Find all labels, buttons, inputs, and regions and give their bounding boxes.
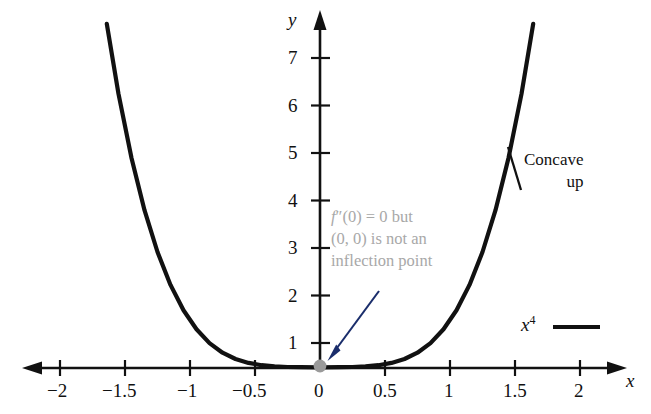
y-axis — [314, 10, 327, 370]
origin-point — [314, 360, 327, 373]
y-tick-label-5: 5 — [288, 143, 298, 162]
x-axis-left-arrowhead — [22, 362, 42, 375]
x-tick-label-neg2: −2 — [47, 381, 67, 400]
figure-container: y x 7 6 5 4 3 2 1 −2 −1.5 −1 −0.5 0 0.5 … — [0, 0, 651, 414]
y-tick-label-2: 2 — [288, 286, 298, 305]
y-tick-label-1: 1 — [288, 333, 298, 352]
y-tick-label-3: 3 — [288, 238, 298, 257]
legend-exponent: 4 — [529, 313, 535, 327]
concavity-annotation-line-2: up — [524, 171, 583, 193]
concavity-annotation-line-1: Concave — [524, 149, 583, 171]
y-axis-arrowhead — [314, 10, 327, 30]
inflection-annotation-line-3: inflection point — [331, 250, 432, 272]
y-tick-label-7: 7 — [288, 48, 298, 67]
inflection-annotation-line-1-rest: ″(0) = 0 but — [336, 207, 413, 226]
inflection-annotation: f″(0) = 0 but (0, 0) is not an inflectio… — [331, 206, 432, 272]
concavity-leader-line — [508, 147, 521, 190]
x-axis-right-arrowhead — [607, 362, 627, 375]
y-tick-label-6: 6 — [288, 96, 298, 115]
concavity-annotation: Concave up — [524, 149, 583, 193]
x-tick-label-neg1point5: −1.5 — [102, 381, 136, 400]
inflection-annotation-line-1: f″(0) = 0 but — [331, 206, 432, 228]
y-tick-label-4: 4 — [288, 191, 298, 210]
x-tick-label-1: 1 — [444, 381, 454, 400]
x-tick-label-0point5: 0.5 — [373, 381, 397, 400]
annotation-leader-arrow — [328, 291, 380, 361]
x-tick-label-0: 0 — [314, 381, 324, 400]
x-tick-label-neg1: −1 — [177, 381, 197, 400]
x-axis-label: x — [626, 371, 634, 390]
y-axis-label: y — [288, 10, 296, 29]
legend-label-x4: x4 — [521, 313, 535, 336]
x-tick-label-neg0point5: −0.5 — [232, 381, 266, 400]
x-tick-label-1point5: 1.5 — [503, 381, 527, 400]
plot-canvas — [0, 0, 651, 414]
inflection-annotation-line-2: (0, 0) is not an — [331, 228, 432, 250]
x-tick-label-2: 2 — [574, 381, 584, 400]
